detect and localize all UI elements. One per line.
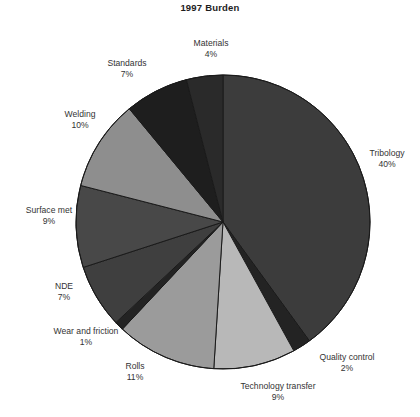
slice-label-standards-value: 7% [84,69,170,80]
slice-label-wear-and-friction: Wear and friction 1% [36,326,136,348]
slice-label-surface-met: Surface met 9% [10,205,88,227]
slice-label-wear-and-friction-name: Wear and friction [36,326,136,337]
slice-label-welding-name: Welding [43,109,117,120]
slice-label-quality-control-name: Quality control [303,352,391,363]
slice-label-quality-control-value: 2% [303,363,391,374]
slice-label-materials-value: 4% [168,49,254,60]
slice-label-wear-and-friction-value: 1% [36,337,136,348]
slice-label-quality-control: Quality control 2% [303,352,391,374]
slice-label-standards: Standards 7% [84,58,170,80]
slice-label-nde-value: 7% [36,292,92,303]
slice-label-nde-name: NDE [36,281,92,292]
slice-label-tribology-name: Tribology [357,148,417,159]
slice-label-surface-met-value: 9% [10,216,88,227]
slice-label-nde: NDE 7% [36,281,92,303]
slice-label-technology-transfer: Technology transfer 9% [222,381,334,403]
slice-label-materials: Materials 4% [168,38,254,60]
slice-label-surface-met-name: Surface met [10,205,88,216]
slice-label-rolls-name: Rolls [107,361,163,372]
slice-label-welding: Welding 10% [43,109,117,131]
slice-label-rolls: Rolls 11% [107,361,163,383]
slice-label-materials-name: Materials [168,38,254,49]
slice-label-tribology-value: 40% [357,159,417,170]
slice-label-welding-value: 10% [43,120,117,131]
slice-label-technology-transfer-name: Technology transfer [222,381,334,392]
slice-label-tribology: Tribology 40% [357,148,417,170]
slice-label-technology-transfer-value: 9% [222,392,334,403]
slice-label-rolls-value: 11% [107,372,163,383]
slice-label-standards-name: Standards [84,58,170,69]
pie-slices-group [76,75,370,369]
pie-chart-figure: 1997 Burden Materials 4% Standards 7% We… [0,0,420,417]
